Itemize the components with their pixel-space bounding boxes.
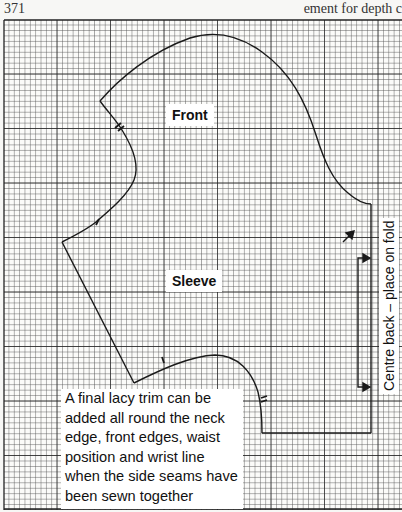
sleeve-label: Sleeve xyxy=(166,270,222,292)
centre-back-fold-label: Centre back – place on fold xyxy=(379,218,399,394)
front-label: Front xyxy=(166,104,214,126)
trim-note: A final lacy trim can be added all round… xyxy=(61,389,243,509)
